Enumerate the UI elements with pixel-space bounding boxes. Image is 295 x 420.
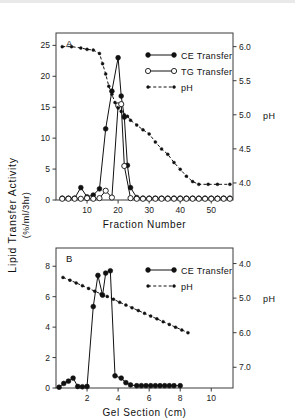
- datapoint-A-tg-transfer-18: [165, 196, 170, 201]
- datapoint-B-ce-transfer-18: [144, 383, 149, 388]
- legend-marker-b-B-0: [172, 268, 177, 273]
- datapoint-A-ph-6: [101, 62, 104, 65]
- xtick-label-B-0: 2: [85, 393, 90, 403]
- datapoint-B-ce-transfer-24: [172, 383, 177, 388]
- ytick-label-A-5: 25: [41, 40, 51, 50]
- y2tick-label-B-1: 5.0: [239, 293, 251, 303]
- datapoint-A-tg-transfer-14: [140, 196, 145, 201]
- datapoint-B-ph-2: [75, 281, 78, 284]
- datapoint-A-ph-27: [207, 183, 210, 186]
- xtick-label-A-0: 10: [82, 205, 92, 215]
- datapoint-A-ph-26: [197, 183, 200, 186]
- legend-marker-a-A-2: [147, 86, 150, 89]
- yaxis-title-units: (%/ml/3hr): [21, 192, 31, 239]
- y2tick-label-A-4: 6.0: [239, 42, 251, 52]
- datapoint-A-tg-transfer-0: [60, 196, 65, 201]
- datapoint-B-ce-transfer-20: [153, 383, 158, 388]
- y2tick-label-B-3: 7.0: [239, 362, 251, 372]
- datapoint-A-ph-23: [179, 168, 182, 171]
- scientific-figure: A102030405005101520254.04.55.05.56.0Frac…: [0, 0, 295, 420]
- top-border-band: [0, 0, 295, 3]
- panel-label-B: B: [66, 253, 72, 264]
- datapoint-A-ce-transfer-7: [103, 126, 108, 131]
- datapoint-A-tg-transfer-26: [215, 196, 220, 201]
- datapoint-B-ce-transfer-4: [75, 384, 80, 389]
- y2tick-label-A-1: 4.5: [239, 144, 251, 154]
- ytick-label-B-3: 6: [45, 292, 50, 302]
- datapoint-B-ce-transfer-21: [158, 383, 163, 388]
- datapoint-A-ph-9: [110, 93, 113, 96]
- ytick-label-B-4: 8: [45, 261, 50, 271]
- datapoint-A-tg-transfer-23: [196, 196, 201, 201]
- datapoint-B-ph-6: [100, 292, 103, 295]
- datapoint-A-tg-transfer-25: [209, 196, 214, 201]
- datapoint-A-ph-0: [61, 45, 64, 48]
- datapoint-A-ce-transfer-9: [116, 55, 121, 60]
- datapoint-B-ce-transfer-5: [80, 384, 85, 389]
- datapoint-B-ce-transfer-2: [66, 379, 71, 384]
- datapoint-A-ph-28: [216, 183, 219, 186]
- legend-label-A-1: TG Transfer: [181, 67, 232, 77]
- datapoint-B-ph-18: [174, 326, 177, 329]
- datapoint-A-tg-transfer-11: [122, 163, 127, 168]
- xtick-label-B-4: 10: [207, 393, 217, 403]
- xtick-label-B-3: 8: [178, 393, 183, 403]
- datapoint-A-ph-25: [191, 180, 194, 183]
- datapoint-B-ph-15: [155, 317, 158, 320]
- datapoint-B-ce-transfer-23: [167, 383, 172, 388]
- y2tick-label-B-2: 6.0: [239, 328, 251, 338]
- datapoint-B-ph-0: [61, 276, 64, 279]
- datapoint-A-ph-4: [92, 49, 95, 52]
- datapoint-B-ce-transfer-0: [57, 385, 62, 390]
- yaxis-title-main: Lipid Transfer Activity: [6, 157, 18, 272]
- datapoint-A-ph-10: [114, 101, 117, 104]
- xtick-label-A-3: 40: [175, 205, 185, 215]
- legend-marker-b-B-1: [173, 285, 176, 288]
- datapoint-A-tg-transfer-21: [184, 196, 189, 201]
- legend-label-B-0: CE Transfer: [181, 266, 232, 276]
- legend-marker-a-A-0: [146, 53, 151, 58]
- datapoint-A-ph-1: [70, 45, 73, 48]
- xtick-label-A-2: 30: [144, 205, 154, 215]
- datapoint-B-ph-12: [137, 309, 140, 312]
- y2tick-label-A-3: 5.5: [239, 76, 251, 86]
- ytick-label-A-3: 15: [41, 102, 51, 112]
- datapoint-A-ph-3: [86, 48, 89, 51]
- legend-marker-b-A-0: [172, 53, 177, 58]
- legend-marker-a-B-0: [146, 268, 151, 273]
- datapoint-B-ce-transfer-22: [162, 383, 167, 388]
- datapoint-B-ph-3: [81, 284, 84, 287]
- datapoint-A-tg-transfer-20: [178, 196, 183, 201]
- datapoint-A-ce-transfer-10: [119, 94, 124, 99]
- datapoint-B-ph-17: [168, 323, 171, 326]
- datapoint-A-ph-19: [154, 141, 157, 144]
- datapoint-B-ph-5: [93, 290, 96, 293]
- datapoint-A-tg-transfer-10: [119, 102, 124, 107]
- figure-root: A102030405005101520254.04.55.05.56.0Frac…: [0, 0, 295, 420]
- datapoint-A-tg-transfer-16: [153, 196, 158, 201]
- legend-marker-b-A-2: [173, 86, 176, 89]
- datapoint-A-ph-12: [120, 110, 123, 113]
- datapoint-A-tg-transfer-7: [103, 188, 108, 193]
- datapoint-A-tg-transfer-22: [190, 196, 195, 201]
- series-line-A-ce-transfer: [62, 58, 230, 198]
- ytick-label-B-0: 0: [45, 383, 50, 393]
- datapoint-A-ph-22: [173, 161, 176, 164]
- datapoint-A-tg-transfer-17: [159, 196, 164, 201]
- datapoint-B-ce-transfer-25: [178, 383, 183, 388]
- datapoint-A-tg-transfer-5: [91, 196, 96, 201]
- datapoint-A-ph-18: [148, 132, 151, 135]
- datapoint-A-ph-7: [104, 72, 107, 75]
- datapoint-A-tg-transfer-13: [134, 196, 139, 201]
- series-line-B-ce-transfer: [59, 271, 180, 387]
- datapoint-B-ph-19: [180, 328, 183, 331]
- y2axis-title-B: pH: [263, 294, 276, 304]
- datapoint-A-tg-transfer-28: [227, 196, 232, 201]
- datapoint-A-tg-transfer-6: [97, 196, 102, 201]
- datapoint-B-ph-11: [131, 306, 134, 309]
- y2tick-label-A-2: 5.0: [239, 110, 251, 120]
- datapoint-A-ph-15: [129, 119, 132, 122]
- xaxis-title-B: Gel Section (cm): [102, 407, 186, 418]
- datapoint-B-ce-transfer-3: [71, 376, 76, 381]
- datapoint-B-ph-20: [186, 331, 189, 334]
